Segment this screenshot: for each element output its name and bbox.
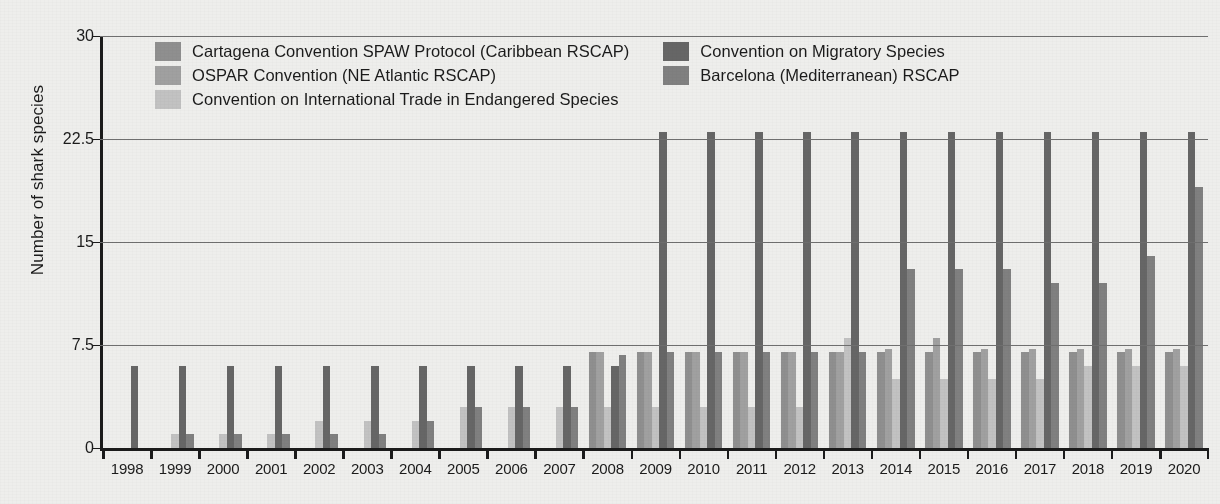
y-tick-mark <box>93 139 100 140</box>
bar <box>1044 132 1052 448</box>
bar <box>1051 283 1059 448</box>
bar <box>755 132 763 448</box>
legend-label: Barcelona (Mediterranean) RSCAP <box>700 66 959 85</box>
x-tick-mark <box>390 448 393 459</box>
bar <box>234 434 242 448</box>
x-tick-mark <box>198 448 201 459</box>
x-tick-mark <box>486 448 489 459</box>
x-tick-mark <box>631 448 634 459</box>
y-tick-mark <box>93 36 100 37</box>
bar <box>1188 132 1196 448</box>
x-tick-label: 2006 <box>487 460 535 477</box>
legend-item[interactable]: Convention on Migratory Species <box>663 40 959 62</box>
bar <box>475 407 483 448</box>
gridline <box>100 36 1208 37</box>
bar <box>508 407 516 448</box>
x-tick-label: 2018 <box>1064 460 1112 477</box>
legend-label: OSPAR Convention (NE Atlantic RSCAP) <box>192 66 496 85</box>
y-axis-title: Number of shark species <box>28 50 48 310</box>
y-tick-label: 22.5 <box>14 130 94 148</box>
bar <box>364 421 372 448</box>
x-tick-label: 2011 <box>728 460 776 477</box>
bar <box>948 132 956 448</box>
bar <box>715 352 723 448</box>
gridline <box>100 242 1208 243</box>
bar <box>1125 349 1133 448</box>
bar <box>1132 366 1140 448</box>
x-tick-mark-end <box>1207 448 1210 459</box>
legend-item[interactable]: Convention on International Trade in End… <box>155 88 629 110</box>
chart-legend: Cartagena Convention SPAW Protocol (Cari… <box>155 40 960 110</box>
y-tick-label: 0 <box>14 439 94 457</box>
bar <box>1084 366 1092 448</box>
bar <box>619 355 627 448</box>
bar <box>907 269 915 448</box>
bar <box>171 434 179 448</box>
x-tick-mark <box>1063 448 1066 459</box>
bar <box>275 366 283 448</box>
x-tick-mark <box>727 448 730 459</box>
bar <box>803 132 811 448</box>
bar <box>1021 352 1029 448</box>
bar <box>330 434 338 448</box>
bar <box>1195 187 1203 448</box>
legend-item[interactable]: OSPAR Convention (NE Atlantic RSCAP) <box>155 64 629 86</box>
bar <box>1173 349 1181 448</box>
bar <box>1029 349 1037 448</box>
bar <box>604 407 612 448</box>
bar <box>788 352 796 448</box>
y-tick-label: 15 <box>14 233 94 251</box>
bar <box>659 132 667 448</box>
x-tick-mark <box>919 448 922 459</box>
x-tick-mark <box>102 448 105 459</box>
legend-label: Convention on International Trade in End… <box>192 90 619 109</box>
bar <box>885 349 893 448</box>
bar <box>996 132 1004 448</box>
legend-column: Convention on Migratory SpeciesBarcelona… <box>663 40 959 110</box>
x-tick-label: 2016 <box>968 460 1016 477</box>
bar <box>589 352 597 448</box>
x-tick-mark <box>775 448 778 459</box>
bar <box>323 366 331 448</box>
bar <box>652 407 660 448</box>
x-tick-label: 2014 <box>872 460 920 477</box>
bar <box>851 132 859 448</box>
legend-swatch <box>155 66 181 85</box>
x-tick-mark <box>534 448 537 459</box>
x-axis-labels: 1998199920002001200220032004200520062007… <box>103 460 1208 477</box>
x-tick-label: 2004 <box>391 460 439 477</box>
bar <box>707 132 715 448</box>
bar <box>740 352 748 448</box>
bar <box>763 352 771 448</box>
legend-item[interactable]: Barcelona (Mediterranean) RSCAP <box>663 64 959 86</box>
bar <box>467 366 475 448</box>
shark-species-bar-chart: Number of shark species 07.51522.530 199… <box>0 0 1220 504</box>
gridline <box>100 139 1208 140</box>
bar <box>637 352 645 448</box>
legend-item[interactable]: Cartagena Convention SPAW Protocol (Cari… <box>155 40 629 62</box>
x-tick-label: 1999 <box>151 460 199 477</box>
bar <box>748 407 756 448</box>
x-tick-mark <box>342 448 345 459</box>
y-tick-mark <box>93 448 100 449</box>
bar <box>556 407 564 448</box>
x-tick-label: 2009 <box>632 460 680 477</box>
bar <box>955 269 963 448</box>
bar <box>315 421 323 448</box>
bar <box>811 352 819 448</box>
bar <box>1117 352 1125 448</box>
bar <box>781 352 789 448</box>
y-tick-label: 7.5 <box>14 336 94 354</box>
bar <box>1077 349 1085 448</box>
bar <box>571 407 579 448</box>
y-tick-mark <box>93 242 100 243</box>
bar <box>700 407 708 448</box>
legend-swatch <box>663 42 689 61</box>
bar <box>940 379 948 448</box>
x-tick-label: 2003 <box>343 460 391 477</box>
x-tick-label: 2013 <box>824 460 872 477</box>
x-tick-mark <box>967 448 970 459</box>
bar <box>1165 352 1173 448</box>
bar <box>219 434 227 448</box>
x-tick-mark <box>582 448 585 459</box>
